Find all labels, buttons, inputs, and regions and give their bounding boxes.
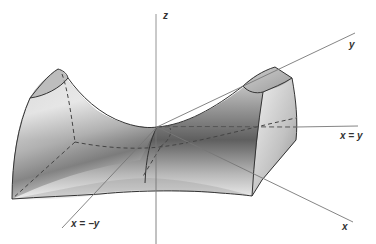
x-axis-label: x xyxy=(342,222,348,232)
saddle-diagram: z y x = y x x = −y xyxy=(0,0,376,244)
saddle-surface-svg xyxy=(0,0,376,244)
z-axis-label: z xyxy=(163,11,168,21)
x-eq-neg-y-label: x = −y xyxy=(71,219,99,229)
x-eq-y-line xyxy=(296,126,358,127)
y-axis-label: y xyxy=(349,40,355,50)
x-eq-y-label: x = y xyxy=(340,131,363,141)
